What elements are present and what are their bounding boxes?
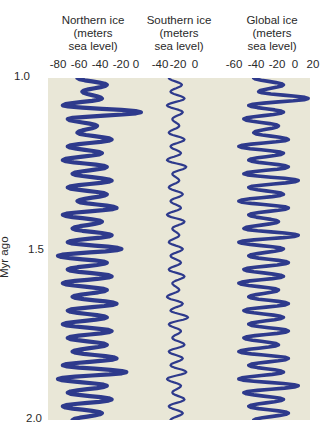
y-tick-2-0: 2.0: [26, 412, 42, 424]
southern-ice-title: Southern ice (meters sea level): [139, 14, 219, 53]
x-tick: -80: [50, 58, 67, 70]
y-axis-title: Myr ago: [0, 236, 10, 278]
x-tick: 20: [307, 58, 320, 70]
x-tick: -60: [226, 58, 243, 70]
global-ice-title: Global ice (meters sea level): [232, 14, 312, 53]
global-ice-curve: [239, 78, 308, 420]
x-tick: 0: [192, 58, 198, 70]
plot-area: [48, 78, 310, 420]
x-tick: 0: [292, 58, 298, 70]
y-tick-1-0: 1.0: [14, 70, 30, 82]
x-tick: -40: [152, 58, 169, 70]
x-tick: -60: [71, 58, 88, 70]
y-tick-1-5: 1.5: [28, 243, 44, 255]
ice-volume-curves: [48, 78, 310, 420]
northern-ice-curve: [58, 78, 141, 420]
x-tick: -20: [113, 58, 130, 70]
x-tick: -40: [92, 58, 109, 70]
southern-ice-curve: [167, 78, 188, 420]
x-tick: -20: [170, 58, 187, 70]
x-tick: -20: [269, 58, 286, 70]
x-tick: 0: [133, 58, 139, 70]
northern-ice-title: Northern ice (meters sea level): [53, 14, 133, 53]
x-tick: -40: [248, 58, 265, 70]
